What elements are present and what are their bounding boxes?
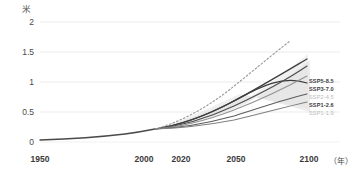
x-tick-2000: 2000 bbox=[124, 154, 164, 164]
y-tick-2: 2 bbox=[8, 17, 34, 27]
y-tick-0: 0 bbox=[8, 137, 34, 147]
uncertainty-band bbox=[155, 54, 310, 129]
y-tick-1-5: 1.5 bbox=[8, 47, 34, 57]
x-tick-2100: 2100 bbox=[289, 154, 329, 164]
legend-item-ssp5-85: SSP5-8.5 bbox=[309, 78, 334, 84]
legend-item-ssp1-19: SSP1-1.9 bbox=[309, 110, 334, 116]
legend-item-ssp2-45: SSP2-4.5 bbox=[309, 94, 334, 100]
sea-level-projection-chart: 米 2 1.5 1 0.5 0 1950 2000 2020 2050 2100… bbox=[0, 0, 354, 175]
legend-item-ssp1-26: SSP1-2.6 bbox=[309, 102, 334, 108]
x-tick-2020: 2020 bbox=[161, 154, 201, 164]
chart-canvas bbox=[0, 0, 354, 175]
historical-line bbox=[40, 129, 155, 140]
x-axis-unit-label: （年） bbox=[329, 155, 353, 166]
legend-item-ssp3-70: SSP3-7.0 bbox=[309, 86, 334, 92]
x-tick-2050: 2050 bbox=[216, 154, 256, 164]
y-tick-1: 1 bbox=[8, 77, 34, 87]
y-tick-0-5: 0.5 bbox=[8, 107, 34, 117]
x-tick-1950: 1950 bbox=[20, 154, 60, 164]
y-axis-unit-label: 米 bbox=[22, 2, 31, 14]
